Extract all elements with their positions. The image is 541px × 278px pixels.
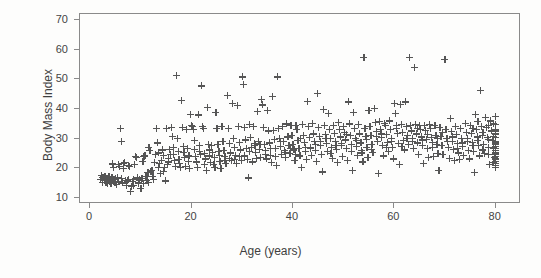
data-point	[225, 125, 232, 132]
data-point	[373, 133, 380, 140]
data-point	[383, 144, 390, 151]
y-tick-mark	[74, 138, 79, 139]
data-point	[262, 147, 269, 154]
data-point	[350, 109, 357, 116]
data-points-layer	[80, 14, 521, 204]
data-point	[190, 126, 197, 133]
data-point	[398, 143, 405, 150]
data-point	[297, 135, 304, 142]
data-point	[466, 155, 473, 162]
y-tick-mark	[74, 78, 79, 79]
plot-frame	[79, 13, 520, 203]
data-point	[165, 155, 172, 162]
x-tick-label: 20	[171, 210, 211, 222]
data-point	[277, 138, 284, 145]
data-point	[99, 174, 106, 181]
x-tick-label: 40	[272, 210, 312, 222]
data-point	[402, 98, 409, 105]
data-point	[477, 87, 484, 94]
x-tick-mark	[292, 203, 293, 208]
data-point	[154, 139, 161, 146]
data-point	[250, 123, 257, 130]
data-point	[419, 136, 426, 143]
data-point	[245, 174, 252, 181]
y-tick-mark	[74, 197, 79, 198]
x-axis-title: Age (years)	[0, 244, 541, 258]
x-tick-label: 0	[69, 210, 109, 222]
data-point	[153, 125, 160, 132]
x-tick-mark	[89, 203, 90, 208]
data-point	[415, 151, 422, 158]
data-point	[349, 167, 356, 174]
data-point	[327, 150, 334, 157]
data-point	[212, 109, 219, 116]
data-point	[118, 138, 125, 145]
y-tick-label: 40	[28, 102, 68, 114]
data-point	[386, 117, 393, 124]
data-point	[414, 125, 421, 132]
data-point	[282, 149, 289, 156]
data-point	[363, 136, 370, 143]
data-point	[264, 107, 271, 114]
data-point	[269, 93, 276, 100]
x-tick-mark	[495, 203, 496, 208]
data-point	[313, 158, 320, 165]
data-point	[273, 162, 280, 169]
data-point	[168, 124, 175, 131]
data-point	[298, 164, 305, 171]
data-point	[371, 105, 378, 112]
data-point	[492, 113, 499, 120]
data-point	[447, 115, 454, 122]
data-point	[343, 131, 350, 138]
y-tick-mark	[74, 19, 79, 20]
data-point	[444, 138, 451, 145]
data-point	[204, 104, 211, 111]
data-point	[314, 90, 321, 97]
data-point	[469, 125, 476, 132]
data-point	[472, 111, 479, 118]
data-point	[180, 149, 187, 156]
data-point	[201, 161, 208, 168]
data-point	[348, 148, 355, 155]
y-tick-label: 10	[28, 191, 68, 203]
data-point	[344, 157, 351, 164]
scatter-plot-figure: Body Mass Index 10203040506070 020406080…	[0, 0, 541, 278]
data-point	[435, 167, 442, 174]
data-point	[131, 161, 138, 168]
data-point	[187, 111, 194, 118]
data-point	[375, 170, 382, 177]
data-point	[396, 161, 403, 168]
data-point	[471, 169, 478, 176]
data-point	[345, 98, 352, 105]
data-point	[274, 73, 281, 80]
data-point	[240, 81, 247, 88]
data-point	[117, 125, 124, 132]
data-point	[224, 92, 231, 99]
y-tick-label: 20	[28, 161, 68, 173]
y-tick-label: 70	[28, 13, 68, 25]
data-point	[411, 64, 418, 71]
data-point	[368, 146, 375, 153]
data-point	[174, 135, 181, 142]
data-point	[353, 137, 360, 144]
y-tick-mark	[74, 167, 79, 168]
data-point	[195, 111, 202, 118]
data-point	[155, 164, 162, 171]
data-point	[360, 54, 367, 61]
x-tick-mark	[393, 203, 394, 208]
data-point	[392, 110, 399, 117]
data-point	[393, 125, 400, 132]
y-axis-title: Body Mass Index	[41, 30, 55, 200]
data-point	[474, 118, 481, 125]
data-point	[239, 73, 246, 80]
data-point	[186, 165, 193, 172]
y-tick-mark	[74, 49, 79, 50]
data-point	[429, 139, 436, 146]
data-point	[358, 147, 365, 154]
data-point	[178, 97, 185, 104]
data-point	[319, 168, 326, 175]
data-point	[469, 142, 476, 149]
data-point	[211, 154, 218, 161]
data-point	[198, 82, 205, 89]
data-point	[173, 72, 180, 79]
